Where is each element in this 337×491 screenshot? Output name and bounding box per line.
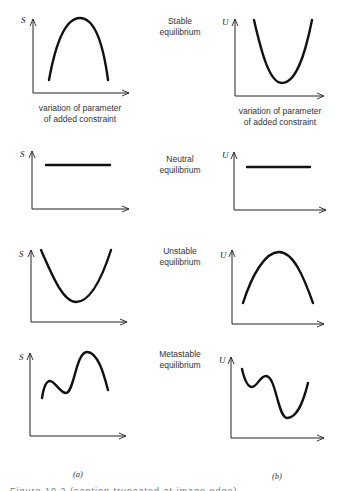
x-axis-caption-a: variation of parameter of added constrai… — [20, 103, 140, 125]
x-caption-line: variation of parameter — [220, 106, 337, 117]
curve-metastable-u — [242, 369, 308, 418]
curve-unstable-u — [243, 252, 313, 303]
row-label-line: Metastable — [135, 349, 225, 360]
axis-label-s: S — [19, 249, 24, 259]
x-axis-caption-b: variation of parameter of added constrai… — [220, 106, 337, 128]
axis-label-s: S — [20, 149, 25, 159]
row-label-unstable: Unstable equilibrium — [135, 246, 225, 268]
axis-label-s: S — [21, 15, 26, 25]
figure-caption-text: Figure 10.2 (caption truncated at image … — [10, 486, 330, 491]
curve-stable-u — [254, 20, 312, 83]
row-label-line: equilibrium — [135, 165, 225, 176]
x-caption-line: of added constraint — [220, 117, 337, 128]
x-caption-line: of added constraint — [20, 114, 140, 125]
row-label-line: Neutral — [135, 154, 225, 165]
curve-metastable-s — [42, 352, 108, 398]
figure-caption-truncated: Figure 10.2 (caption truncated at image … — [10, 486, 330, 491]
row-label-neutral: Neutral equilibrium — [135, 154, 225, 176]
x-caption-line: variation of parameter — [20, 103, 140, 114]
row-label-stable: Stable equilibrium — [135, 16, 225, 38]
row-label-line: equilibrium — [135, 360, 225, 371]
axis-label-s: S — [19, 352, 24, 362]
curve-unstable-s — [41, 250, 111, 302]
row-label-line: equilibrium — [135, 257, 225, 268]
curve-stable-s — [49, 18, 108, 80]
row-label-metastable: Metastable equilibrium — [135, 349, 225, 371]
panel-tag-a: (a) — [73, 469, 83, 479]
row-label-line: Stable — [135, 16, 225, 27]
row-label-line: Unstable — [135, 246, 225, 257]
row-label-line: equilibrium — [135, 27, 225, 38]
panel-tag-b: (b) — [272, 471, 282, 481]
